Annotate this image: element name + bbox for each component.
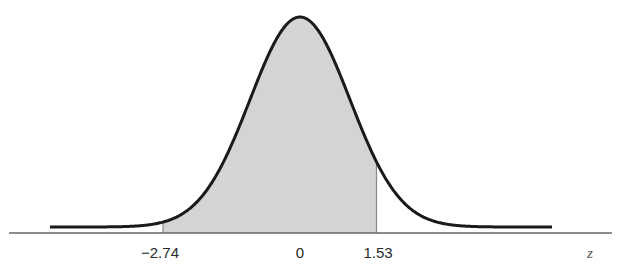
tick-label-left: −2.74 [141, 244, 179, 261]
normal-distribution-chart: −2.74 0 1.53 z [0, 0, 630, 271]
tick-label-right: 1.53 [363, 244, 392, 261]
tick-label-center: 0 [296, 244, 304, 261]
axis-label-z: z [586, 245, 593, 261]
